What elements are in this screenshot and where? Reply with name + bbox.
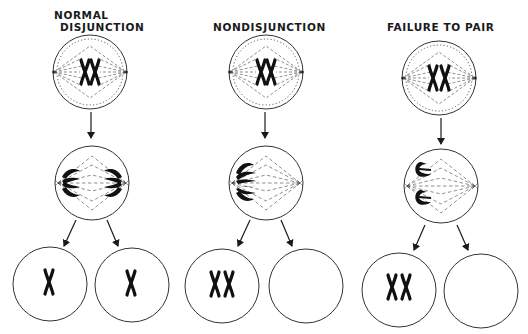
nondisjunction-anaphase-cell [229, 146, 303, 220]
normal-daughter-cell-1 [13, 247, 87, 321]
failure-to-pair-daughter-cell-2-empty [444, 254, 518, 328]
arrow-left-icon [414, 225, 425, 250]
arrow-right-icon [457, 225, 468, 250]
failure-to-pair-daughter-cell-1 [362, 253, 436, 327]
nondisjunction-daughter-cell-2-empty [269, 249, 343, 323]
paired-homologs [81, 60, 89, 84]
arrow-right-icon [107, 220, 118, 246]
failure-to-pair-metaphase-cell [401, 41, 476, 115]
failure-to-pair-anaphase-cell [404, 149, 478, 223]
nondisjunction-metaphase-cell [228, 35, 303, 109]
arrow-right-icon [281, 220, 292, 246]
meiosis-diagram [0, 0, 528, 334]
normal-metaphase-cell [52, 35, 127, 109]
nondisjunction-daughter-cell-1 [185, 249, 259, 323]
normal-daughter-cell-2 [95, 248, 169, 322]
arrow-left-icon [238, 220, 250, 246]
arrow-left-icon [64, 220, 76, 246]
normal-anaphase-cell [55, 146, 129, 220]
